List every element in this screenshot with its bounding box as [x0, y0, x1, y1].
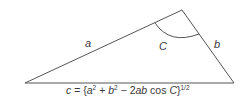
triangle [25, 10, 234, 83]
formula-a-exp: 2 [93, 84, 97, 91]
formula-exponent: 1/2 [180, 84, 189, 91]
formula-C: C [169, 84, 177, 96]
formula-b-exp: 2 [114, 84, 118, 91]
angle-C-label: C [159, 40, 167, 52]
formula-c: c [66, 84, 71, 96]
law-of-cosines-formula: c = {a2 + b2 − 2ab cos C}1/2 [66, 84, 190, 96]
formula-minus: − [121, 84, 127, 96]
formula-equals: = [74, 84, 80, 96]
formula-plus: + [99, 84, 105, 96]
formula-ab: ab [136, 84, 148, 96]
side-b-label: b [214, 38, 220, 50]
formula-cos: cos [150, 84, 166, 96]
side-a-label: a [85, 37, 91, 49]
